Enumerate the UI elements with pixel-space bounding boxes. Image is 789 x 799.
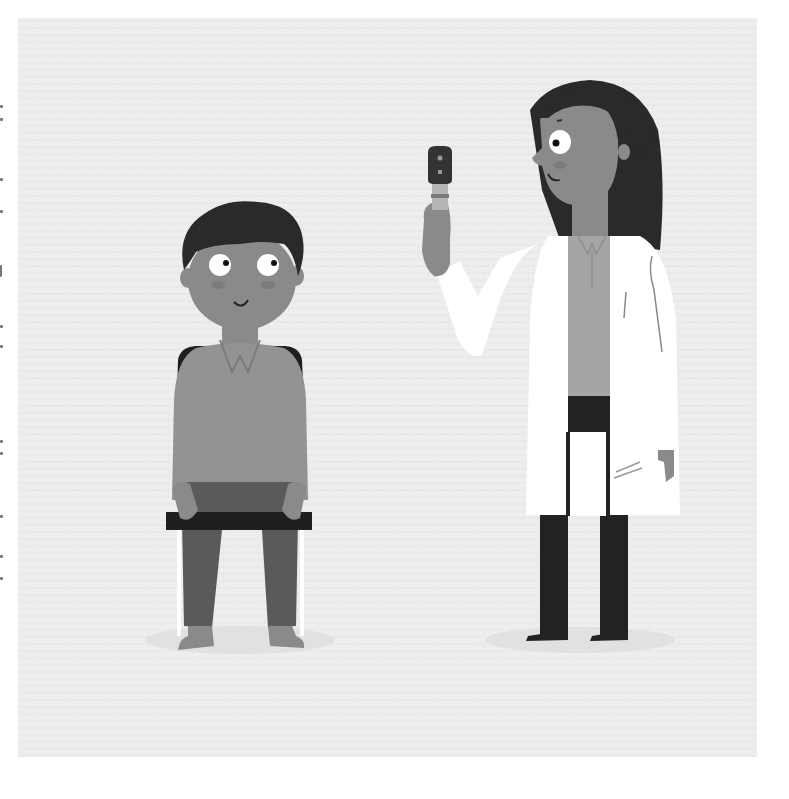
chair-leg-left xyxy=(177,528,181,636)
illustration-canvas xyxy=(0,0,789,799)
coat-inner-gap xyxy=(570,432,608,516)
doctor-ear xyxy=(618,144,630,160)
doctor-eye xyxy=(549,130,571,154)
doctor-pupil xyxy=(553,140,560,147)
doctor-eyebrow xyxy=(557,120,562,121)
ophthalmoscope-light xyxy=(438,170,442,174)
boy-cheek-right xyxy=(261,281,275,289)
boy-ear-left xyxy=(180,268,196,288)
doctor-leg-right xyxy=(600,515,628,635)
doctor-pants-waist xyxy=(568,396,610,432)
boy-figure xyxy=(166,201,312,650)
scene-svg xyxy=(0,0,789,799)
doctor-pants-edge-left xyxy=(566,432,570,516)
ophthalmoscope-head xyxy=(428,146,452,184)
doctor-leg-left xyxy=(540,515,568,635)
doctor-pants-edge-right xyxy=(606,432,610,516)
boy-ear-right xyxy=(288,266,304,286)
ophthalmoscope-lens xyxy=(438,156,443,161)
doctor-cheek xyxy=(554,161,566,169)
doctor-shirt xyxy=(568,236,610,396)
doctor-figure xyxy=(422,80,680,641)
boy-thighs xyxy=(180,482,300,512)
ophthalmoscope-icon xyxy=(428,146,452,210)
doctor-hand-raised xyxy=(422,202,451,276)
chair-leg-right xyxy=(300,528,304,636)
boy-ground-shadow xyxy=(145,626,335,654)
boy-pupil-right xyxy=(271,260,277,266)
boy-shirt xyxy=(172,343,308,500)
boy-pupil-left xyxy=(223,260,229,266)
ophthalmoscope-ring xyxy=(431,194,449,198)
doctor-ground-shadow xyxy=(485,627,675,653)
boy-cheek-left xyxy=(211,281,225,289)
